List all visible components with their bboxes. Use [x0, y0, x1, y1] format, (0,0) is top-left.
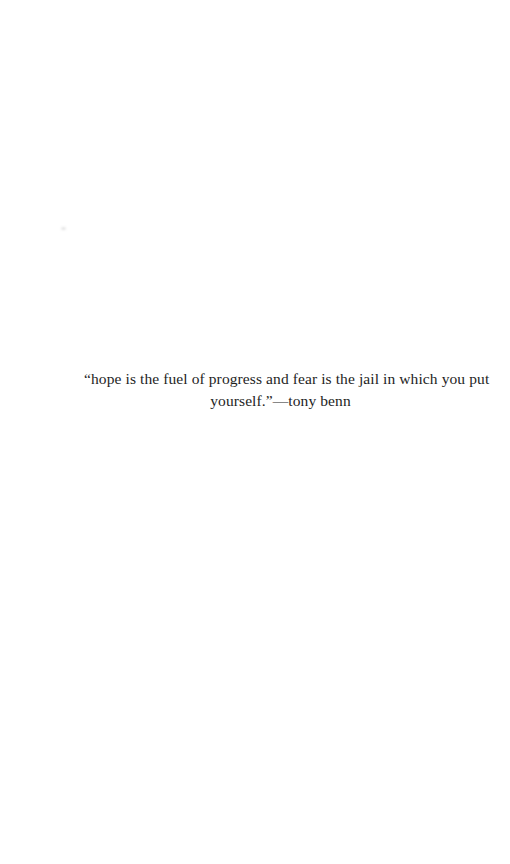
book-page: “hope is the fuel of progress and fear i… — [0, 0, 510, 864]
quote-line-2: yourself.”—tony benn — [84, 390, 477, 412]
quote-line-1: “hope is the fuel of progress and fear i… — [84, 368, 477, 390]
quote-paragraph: “hope is the fuel of progress and fear i… — [84, 368, 477, 412]
scan-artifact-speck — [61, 227, 66, 230]
